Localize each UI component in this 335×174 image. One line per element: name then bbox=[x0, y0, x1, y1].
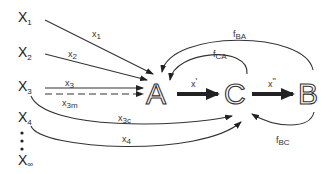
edge-x3m-to-a-dashed: x3m bbox=[45, 94, 143, 110]
svg-text:x1: x1 bbox=[92, 29, 102, 41]
edge-x1-to-a: x1 bbox=[45, 20, 153, 74]
edge-fca: fCA bbox=[170, 49, 247, 80]
ellipsis-dots bbox=[20, 131, 23, 150]
svg-text:x': x' bbox=[191, 76, 198, 89]
svg-text:x3m: x3m bbox=[62, 98, 78, 110]
svg-text:fBA: fBA bbox=[233, 29, 247, 41]
node-a: A bbox=[146, 77, 166, 110]
svg-text:B: B bbox=[298, 77, 318, 110]
svg-text:x'': x'' bbox=[268, 76, 276, 89]
edge-c-to-b: x'' bbox=[252, 76, 293, 94]
svg-text:X4: X4 bbox=[18, 109, 32, 127]
svg-text:A: A bbox=[146, 77, 166, 110]
svg-text:X3: X3 bbox=[18, 78, 32, 96]
source-xinf: X∞ bbox=[18, 152, 33, 169]
source-x1: X1 bbox=[18, 9, 32, 27]
svg-text:C: C bbox=[224, 77, 246, 110]
svg-text:fCA: fCA bbox=[213, 49, 227, 61]
svg-text:X∞: X∞ bbox=[18, 152, 33, 169]
edge-x3-to-a: x3 bbox=[45, 78, 143, 90]
edge-fbc: fBC bbox=[252, 112, 314, 147]
svg-text:x2: x2 bbox=[68, 49, 78, 61]
edge-x4-to-c: x4 bbox=[31, 122, 241, 147]
source-x2: X2 bbox=[18, 44, 32, 62]
edge-a-to-c: x' bbox=[177, 76, 218, 94]
flow-diagram: X1 X2 X3 X4 X∞ x1 x2 x3 x3m x3c x4 bbox=[0, 0, 335, 174]
edge-x2-to-a: x2 bbox=[45, 49, 147, 80]
source-x4: X4 bbox=[18, 109, 32, 127]
svg-text:X2: X2 bbox=[18, 44, 32, 62]
node-b: B bbox=[298, 77, 318, 110]
svg-text:fBC: fBC bbox=[276, 135, 290, 147]
source-x3: X3 bbox=[18, 78, 32, 96]
svg-text:x4: x4 bbox=[122, 134, 132, 146]
edge-fba: fBA bbox=[162, 29, 313, 72]
node-c: C bbox=[224, 77, 246, 110]
svg-text:X1: X1 bbox=[18, 9, 32, 27]
